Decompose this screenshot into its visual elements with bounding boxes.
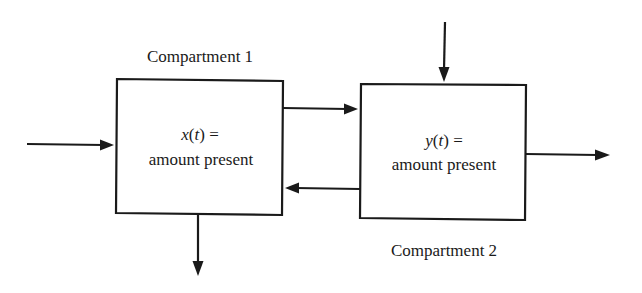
arrowhead-right-icon (595, 150, 610, 161)
input-to-compartment-2-arrow (439, 22, 450, 82)
compartment-1: x(t) = amount present (116, 79, 283, 215)
arrowhead-down-icon (439, 67, 450, 82)
compartment-1-output-arrow (193, 214, 204, 276)
compartment-2-variable: y(t) = (423, 131, 462, 150)
compartment-2: y(t) = amount present (360, 84, 526, 220)
compartment-2-equals: = (449, 131, 463, 150)
arrowhead-right-icon (100, 140, 114, 151)
compartment-1-to-compartment-2-arrow (283, 104, 358, 115)
compartment-1-label: Compartment 1 (147, 47, 253, 66)
compartment-2-to-compartment-1-arrow (285, 183, 360, 194)
compartment-2-description: amount present (392, 155, 497, 174)
compartment-2-label: Compartment 2 (391, 241, 497, 260)
compartment-2-var-symbol: y (423, 131, 433, 150)
arrowhead-left-icon (285, 183, 299, 194)
compartment-1-equals: = (205, 125, 219, 144)
arrowhead-down-icon (193, 261, 204, 276)
arrowhead-right-icon (344, 104, 358, 115)
compartment-2-output-arrow (526, 150, 610, 161)
compartment-1-variable: x(t) = (180, 125, 218, 144)
compartment-1-box (116, 79, 283, 215)
compartment-1-description: amount present (149, 150, 254, 169)
input-to-compartment-1-arrow (27, 140, 114, 151)
compartment-diagram: Compartment 1 x(t) = amount present y(t)… (0, 0, 642, 293)
compartment-2-box (360, 84, 526, 220)
